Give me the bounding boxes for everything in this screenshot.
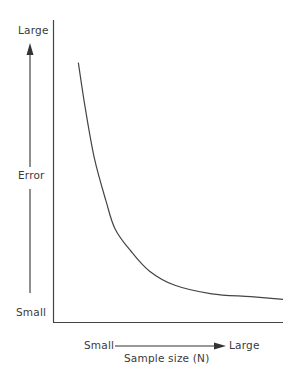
chart-canvas	[0, 0, 305, 378]
error-curve	[78, 63, 283, 300]
y-axis-title: Error	[18, 169, 45, 181]
x-axis-title: Sample size (N)	[124, 352, 209, 364]
x-low-label: Small	[84, 339, 114, 351]
x-high-label: Large	[229, 339, 260, 351]
x-right-arrow-icon	[115, 343, 226, 350]
y-high-label: Large	[18, 24, 49, 36]
y-low-label: Small	[16, 306, 46, 318]
y-up-arrow-icon	[27, 43, 34, 167]
